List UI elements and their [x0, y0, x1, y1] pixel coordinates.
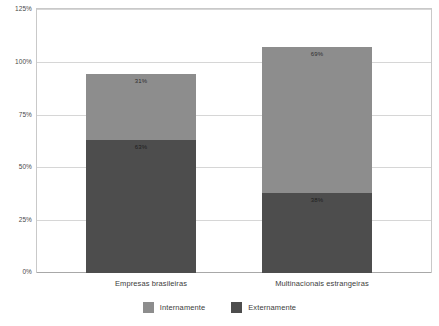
legend-item-externamente[interactable]: Externamente: [231, 302, 296, 313]
legend-item-internamente[interactable]: Internamente: [143, 302, 205, 313]
y-tick-label-75: 75%: [0, 110, 32, 117]
legend-label-internamente: Internamente: [160, 303, 205, 312]
chart-legend: Internamente Externamente: [0, 302, 439, 313]
bar-group-multinacionais-estrangeiras: 69% 38%: [262, 47, 372, 273]
y-tick-label-0: 0%: [0, 268, 32, 275]
bar-segment-internamente[interactable]: 69%: [262, 47, 372, 193]
bar-segment-internamente[interactable]: 31%: [86, 74, 196, 140]
y-tick-label-50: 50%: [0, 163, 32, 170]
y-tick-label-125: 125%: [0, 5, 32, 12]
stacked-bar-chart: 125% 100% 75% 50% 25% 0% 31% 63% 69% 38%…: [0, 0, 439, 326]
x-category-label-empresas-brasileiras: Empresas brasileiras: [66, 279, 236, 288]
y-tick-label-100: 100%: [0, 57, 32, 64]
bars-layer: 31% 63% 69% 38%: [36, 8, 432, 273]
legend-label-externamente: Externamente: [248, 303, 296, 312]
bar-segment-externamente[interactable]: 63%: [86, 140, 196, 273]
bar-segment-externamente[interactable]: 38%: [262, 193, 372, 273]
bar-group-empresas-brasileiras: 31% 63%: [86, 74, 196, 273]
legend-swatch-icon: [143, 302, 154, 313]
y-tick-label-25: 25%: [0, 216, 32, 223]
bar-segment-label-externamente: 38%: [262, 197, 372, 203]
legend-swatch-icon: [231, 302, 242, 313]
bar-segment-label-internamente: 69%: [262, 51, 372, 57]
bar-segment-label-internamente: 31%: [86, 78, 196, 84]
x-category-label-multinacionais-estrangeiras: Multinacionais estrangeiras: [232, 279, 412, 288]
bar-segment-label-externamente: 63%: [86, 144, 196, 150]
